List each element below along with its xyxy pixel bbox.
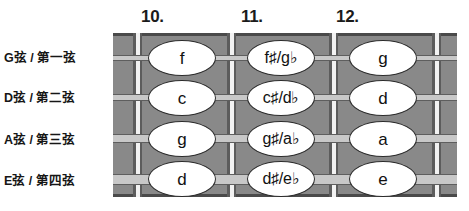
note-marker: f [148, 40, 216, 76]
string-label: G弦 / 第一弦 [4, 51, 108, 65]
fret-number: 12. [336, 7, 359, 27]
note-marker: e [349, 161, 417, 197]
note-marker: d [349, 80, 417, 116]
note-marker: c [148, 80, 216, 116]
fret-number: 11. [241, 7, 263, 27]
string-label: A弦 / 第三弦 [4, 133, 108, 147]
note-marker: a [349, 121, 417, 157]
note-marker: g [349, 40, 417, 76]
fretboard-top-edge [113, 33, 457, 36]
string-label: E弦 / 第四弦 [4, 174, 108, 188]
fret-number: 10. [141, 7, 164, 27]
fretboard-diagram: 10.11.12. G弦 / 第一弦D弦 / 第二弦A弦 / 第三弦E弦 / 第… [0, 0, 469, 211]
note-marker: d [148, 161, 216, 197]
note-marker: g [148, 121, 216, 157]
note-marker: g♯/a♭ [247, 121, 315, 157]
note-marker: f♯/g♭ [247, 40, 315, 76]
note-marker: c♯/d♭ [247, 80, 315, 116]
note-marker: d♯/e♭ [247, 161, 315, 197]
string-label: D弦 / 第二弦 [4, 91, 108, 105]
